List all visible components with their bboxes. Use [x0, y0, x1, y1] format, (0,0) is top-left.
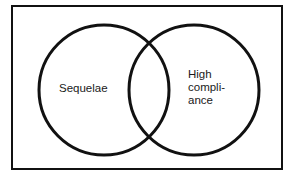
- diagram-frame: [12, 6, 282, 169]
- sequelae-label: Sequelae: [59, 82, 108, 95]
- high-compliance-label: High compli- ance: [188, 68, 225, 107]
- venn-diagram: [0, 0, 299, 181]
